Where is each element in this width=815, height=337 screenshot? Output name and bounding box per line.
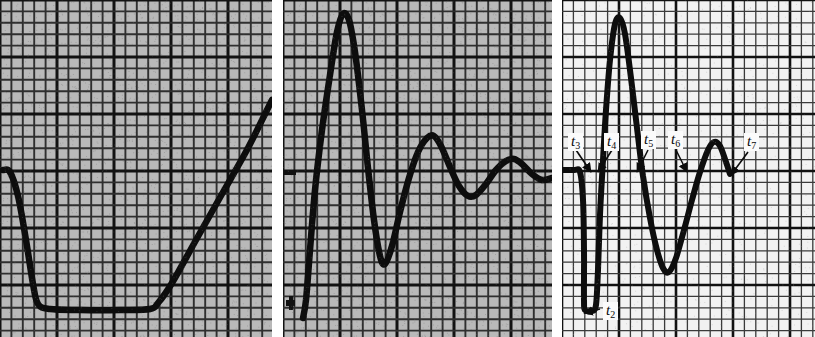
calibration-tick-lower	[289, 296, 293, 310]
time-label-t2: t2	[603, 302, 618, 320]
trace-curve-right	[562, 0, 815, 337]
right-trace-panel	[562, 0, 815, 337]
time-label-t4: t4	[604, 133, 619, 151]
left-trace-panel	[0, 0, 272, 337]
time-label-t3: t3	[568, 133, 583, 151]
time-label-index: 5	[648, 138, 653, 149]
trace-curve-middle	[283, 0, 552, 337]
time-label-index: 6	[675, 138, 680, 149]
trace-curve-left	[0, 0, 272, 337]
middle-trace-panel	[283, 0, 552, 337]
figure-root: t3t4t5t6t7t2	[0, 0, 815, 337]
time-label-index: 2	[610, 309, 615, 320]
time-label-t7: t7	[744, 133, 759, 151]
time-label-index: 7	[751, 140, 756, 151]
time-label-index: 4	[611, 140, 616, 151]
calibration-mark-upper	[284, 170, 296, 175]
time-label-t5: t5	[641, 131, 656, 149]
time-label-index: 3	[575, 140, 580, 151]
time-label-t6: t6	[668, 131, 683, 149]
